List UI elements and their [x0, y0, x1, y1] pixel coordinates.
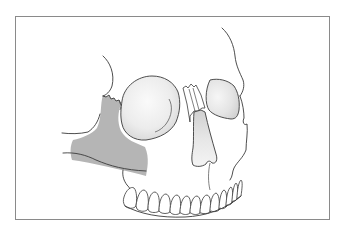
left-orbit [121, 76, 180, 140]
maxilla-midline [209, 163, 211, 190]
tooth [232, 183, 238, 203]
cranium-left-contour [103, 56, 113, 96]
tooth [180, 196, 191, 215]
tooth [200, 195, 211, 214]
tooth [159, 194, 170, 214]
skull-illustration [0, 0, 350, 247]
tooth [148, 192, 159, 213]
nasal-aperture [192, 110, 217, 166]
tooth [190, 196, 201, 215]
teeth-row [123, 180, 242, 215]
tooth [210, 193, 219, 212]
skull-drawing [0, 0, 350, 247]
right-orbit [206, 79, 239, 119]
tooth [123, 187, 136, 208]
tooth [170, 195, 181, 215]
tooth [136, 190, 148, 211]
